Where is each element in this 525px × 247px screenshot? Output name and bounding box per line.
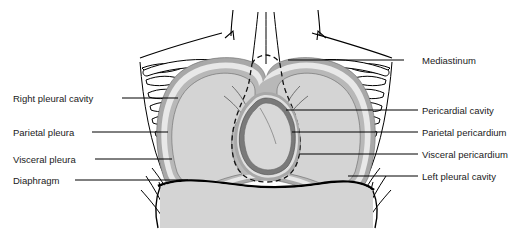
- label-visceral-pleura: Visceral pleura: [13, 154, 76, 165]
- label-diaphragm: Diaphragm: [13, 175, 59, 186]
- label-right-pleural-cavity: Right pleural cavity: [13, 93, 93, 104]
- abdominal-cavity: [160, 182, 373, 228]
- thoracic-cavity-illustration: [0, 0, 525, 247]
- diagram-page: Right pleural cavity Parietal pleura Vis…: [0, 0, 525, 247]
- label-visceral-pericardium: Visceral pericardium: [422, 149, 508, 160]
- label-parietal-pleura: Parietal pleura: [13, 127, 74, 138]
- trachea-vessels: [252, 12, 280, 64]
- label-pericardial-cavity: Pericardial cavity: [422, 105, 494, 116]
- label-left-pleural-cavity: Left pleural cavity: [422, 171, 496, 182]
- label-mediastinum: Mediastinum: [422, 55, 476, 66]
- label-parietal-pericardium: Parietal pericardium: [422, 127, 506, 138]
